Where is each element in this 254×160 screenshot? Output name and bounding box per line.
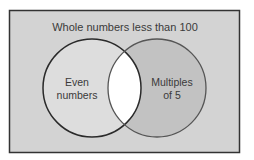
left-set-label-line2: numbers xyxy=(57,89,98,101)
right-set-label-line1: Multiples xyxy=(151,76,192,88)
venn-diagram: Whole numbers less than 100 Even numbers… xyxy=(0,0,254,160)
left-set-label-line1: Even xyxy=(65,76,89,88)
right-set-label-line2: of 5 xyxy=(163,89,181,101)
diagram-title: Whole numbers less than 100 xyxy=(52,21,198,33)
